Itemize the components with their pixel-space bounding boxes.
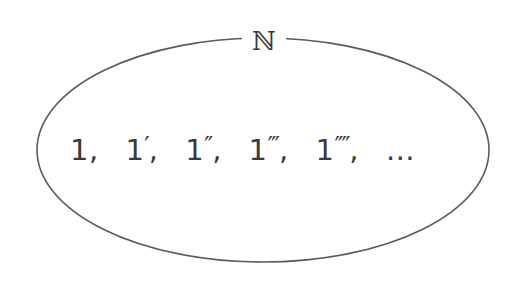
element-1-quadruple-prime: 1⁗, [315, 133, 359, 169]
element-1-prime: 1′, [125, 133, 158, 169]
set-label-naturals: ℕ [242, 28, 286, 54]
element-1: 1, [70, 133, 99, 169]
element-1-double-prime: 1″, [185, 133, 222, 169]
element-1-triple-prime: 1‴, [249, 133, 289, 169]
successor-sequence: 1, 1′, 1″, 1‴, 1⁗, … [70, 133, 470, 169]
diagram-canvas: ℕ 1, 1′, 1″, 1‴, 1⁗, … [0, 0, 524, 282]
ellipsis: … [386, 133, 416, 169]
